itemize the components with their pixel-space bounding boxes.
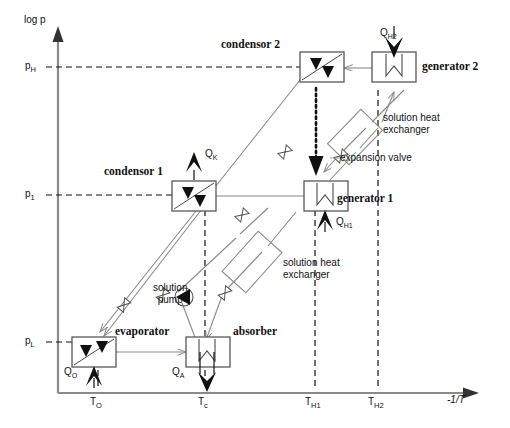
QA-label: QA	[172, 366, 184, 379]
QO-sub: O	[72, 372, 77, 379]
solution-pump-label-line2: pump	[153, 294, 187, 306]
y-tick-p1: p1	[25, 188, 35, 202]
y-axis-label: log p	[24, 14, 46, 25]
generator-2-label: generator 2	[422, 60, 478, 72]
QK-label: QK	[205, 148, 217, 161]
shx-low-label-line2: exchanger	[283, 269, 340, 281]
x-tick-TH1: TH1	[305, 396, 321, 410]
QA-sub: A	[180, 372, 185, 379]
QK-text: Q	[205, 148, 213, 159]
evaporator-box	[72, 337, 116, 388]
solution-pump-label: solution pump	[153, 282, 187, 306]
absorber-label: absorber	[233, 325, 277, 337]
shx-low-label-line1: solution heat	[283, 257, 340, 269]
diagram-canvas: log p -1/T pH p1 pL TO Tc TH1 TH2 conden…	[0, 0, 510, 428]
x-tick-Tc-sub: c	[204, 401, 208, 410]
expansion-valve-label: expansion valve	[340, 152, 412, 163]
cycle-lines	[100, 68, 404, 352]
condensor-1-label: condensor 1	[104, 165, 163, 177]
x-axis-label: -1/T	[447, 394, 465, 405]
generator-1-label: generator 1	[337, 192, 393, 204]
x-tick-TH2: TH2	[368, 396, 384, 410]
QK-sub: K	[213, 154, 218, 161]
evaporator-label: evaporator	[115, 325, 169, 337]
QH1-text: Q	[336, 216, 344, 227]
QO-label: QO	[64, 366, 77, 379]
QO-text: Q	[64, 366, 72, 377]
x-tick-TO: TO	[90, 396, 102, 410]
QO-arrow	[86, 366, 102, 388]
shx-high-label-line2: exchanger	[383, 124, 440, 136]
solution-pump-label-line1: solution	[153, 282, 187, 294]
y-tick-pL-sub: L	[31, 340, 35, 349]
QA-text: Q	[172, 366, 180, 377]
vapour-line-c2-g1	[309, 88, 324, 176]
y-tick-pH: pH	[25, 60, 36, 74]
QH2-label: QH2	[380, 27, 397, 40]
QH2-text: Q	[380, 27, 388, 38]
shx-high-label-line1: solution heat	[383, 112, 440, 124]
QH2-sub: H2	[388, 33, 397, 40]
QK-arrow	[186, 152, 202, 180]
y-tick-p1-sub: 1	[31, 193, 35, 202]
shx-low-label: solution heat exchanger	[283, 257, 340, 281]
x-tick-Tc: Tc	[198, 396, 208, 410]
x-tick-TH1-sub: H1	[311, 401, 321, 410]
x-tick-TH2-sub: H2	[374, 401, 384, 410]
y-tick-pH-sub: H	[31, 65, 36, 74]
y-tick-pL: pL	[25, 335, 35, 349]
condensor-2-label: condensor 2	[221, 38, 280, 50]
temperature-lines	[98, 86, 378, 386]
shx-high-label: solution heat exchanger	[383, 112, 440, 136]
x-tick-TO-sub: O	[96, 401, 102, 410]
QH1-arrow	[317, 210, 333, 232]
QH1-label: QH1	[336, 216, 353, 229]
QH1-sub: H1	[344, 222, 353, 229]
condensor-2-box	[300, 52, 344, 82]
absorber-box	[186, 337, 230, 392]
